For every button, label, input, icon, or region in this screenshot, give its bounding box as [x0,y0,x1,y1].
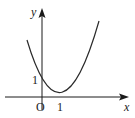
y-axis-label: y [30,5,37,19]
function-graph-diagram: y x O 1 1 [0,0,135,118]
x-axis-label: x [123,100,130,114]
origin-label: O [36,100,45,114]
graph-canvas: y x O 1 1 [0,0,135,118]
x-tick-label: 1 [57,100,63,114]
y-tick-label: 1 [32,73,38,87]
